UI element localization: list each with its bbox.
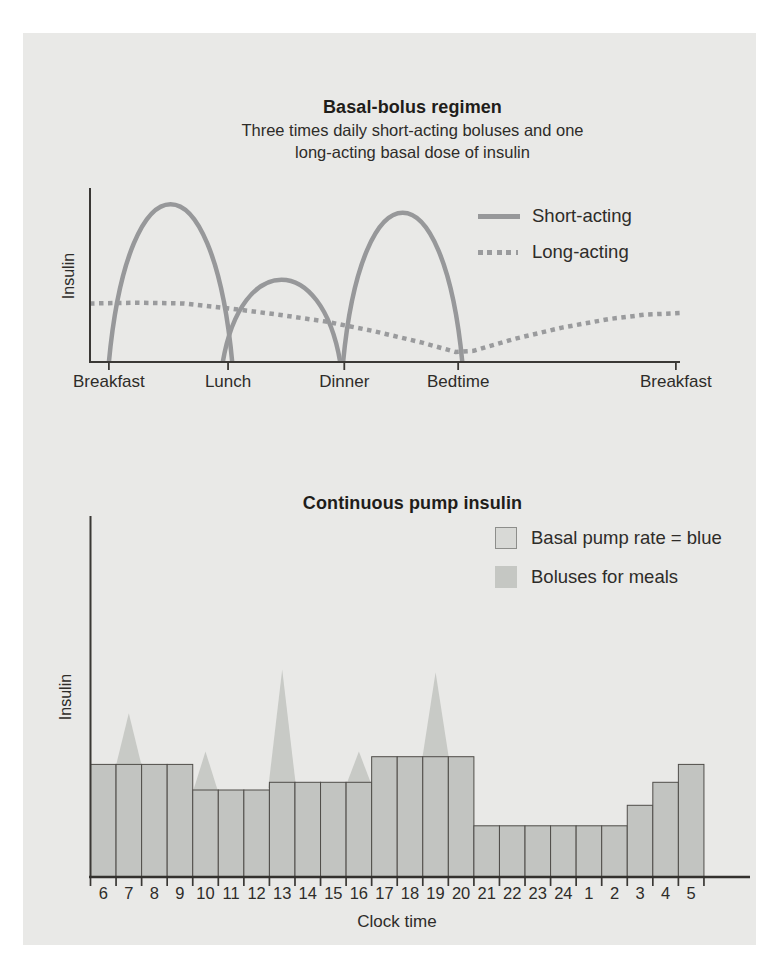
basal-rate-bar (269, 782, 295, 877)
basal-rate-bar (678, 764, 704, 877)
basal-rate-bar (167, 764, 193, 877)
hour-label: 23 (529, 884, 547, 903)
basal-rate-bar (653, 782, 679, 877)
hour-label: 15 (324, 884, 342, 903)
basal-rate-bar (474, 826, 500, 877)
figure-page: Basal-bolus regimen Three times daily sh… (0, 0, 778, 976)
hour-label: 21 (477, 884, 495, 903)
hour-label: 22 (503, 884, 521, 903)
basal-rate-bar (423, 757, 449, 877)
long-acting-curve (90, 303, 680, 352)
clock-time-axis-label: Clock time (357, 912, 436, 932)
basal-rate-bar (346, 782, 372, 877)
basal-rate-bar (116, 764, 142, 877)
basal-rate-bar (91, 764, 117, 877)
pump-plot (60, 505, 760, 890)
hour-label: 13 (273, 884, 291, 903)
hour-label: 7 (124, 884, 133, 903)
basal-rate-bar (321, 782, 347, 877)
hour-label: 24 (554, 884, 572, 903)
basal-bolus-title: Basal-bolus regimen (46, 97, 778, 118)
hour-label: 6 (99, 884, 108, 903)
bolus-triangle (192, 752, 220, 796)
hour-label: 17 (375, 884, 393, 903)
hour-label: 11 (223, 884, 240, 903)
hour-label: 2 (610, 884, 619, 903)
basal-bolus-plot (60, 180, 720, 375)
short-acting-arc (223, 280, 340, 362)
hour-label: 10 (196, 884, 214, 903)
basal-bolus-subtitle-line1: Three times daily short-acting boluses a… (46, 121, 778, 140)
basal-rate-bar (525, 826, 551, 877)
basal-rate-bar (218, 790, 244, 877)
hour-label: 4 (661, 884, 670, 903)
bolus-triangle (115, 713, 143, 770)
basal-rate-bar (448, 757, 474, 877)
hour-label: 12 (247, 884, 265, 903)
hour-label: 19 (426, 884, 444, 903)
figure-panel: Basal-bolus regimen Three times daily sh… (23, 33, 756, 945)
basal-rate-bar (627, 805, 653, 877)
basal-rate-bar (499, 826, 525, 877)
hour-label: 8 (150, 884, 159, 903)
x-tick-label: Breakfast (640, 372, 712, 392)
basal-rate-bar (551, 826, 577, 877)
basal-rate-bar (244, 790, 270, 877)
basal-rate-bar (142, 764, 168, 877)
hour-label: 18 (401, 884, 419, 903)
basal-rate-bar (193, 790, 219, 877)
basal-rate-bar (295, 782, 321, 877)
hour-label: 3 (635, 884, 644, 903)
hour-label: 9 (175, 884, 184, 903)
x-tick-label: Lunch (205, 372, 251, 392)
basal-bolus-subtitle-line2: long-acting basal dose of insulin (46, 143, 778, 162)
basal-rate-bar (397, 757, 423, 877)
basal-rate-bar (576, 826, 602, 877)
x-tick-label: Dinner (319, 372, 369, 392)
bolus-triangle (268, 670, 296, 789)
basal-rate-bar (372, 757, 398, 877)
x-tick-label: Bedtime (427, 372, 489, 392)
hour-label: 5 (687, 884, 696, 903)
hour-label: 20 (452, 884, 470, 903)
short-acting-arc (109, 204, 232, 362)
x-tick-label: Breakfast (73, 372, 145, 392)
hour-label: 1 (584, 884, 593, 903)
hour-label: 16 (350, 884, 368, 903)
hour-label: 14 (299, 884, 317, 903)
bolus-triangle (422, 672, 450, 763)
basal-rate-bar (602, 826, 628, 877)
